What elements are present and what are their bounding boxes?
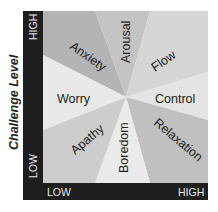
label-control: Control: [155, 92, 195, 106]
y-axis-low-label: LOW: [27, 154, 39, 178]
y-axis-title: Challenge Level: [7, 54, 21, 150]
y-axis-high-label: HIGH: [27, 14, 39, 40]
label-boredom: Boredom: [117, 122, 131, 173]
flow-model-diagram: Anxiety Arousal Flow Control Relaxation …: [0, 0, 218, 212]
x-axis-low-label: LOW: [47, 186, 71, 198]
label-worry: Worry: [57, 92, 91, 106]
x-axis-high-label: HIGH: [178, 186, 204, 198]
label-arousal: Arousal: [119, 21, 133, 63]
